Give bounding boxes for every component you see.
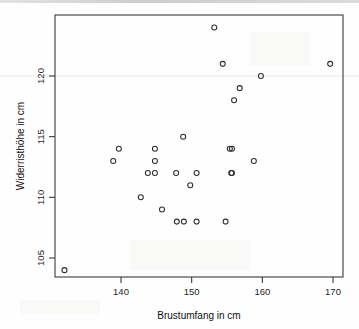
- data-point: [212, 25, 217, 30]
- y-tick-label: 105: [35, 250, 46, 266]
- data-point: [111, 158, 116, 163]
- data-point: [328, 61, 333, 66]
- scatter-plot-figure: 140150160170 105110115120 Brustumfang in…: [0, 0, 359, 329]
- data-point: [174, 219, 179, 224]
- y-axis-title: Widerristhöhe in cm: [15, 102, 26, 190]
- plot-frame: [55, 15, 343, 277]
- data-point: [62, 268, 67, 273]
- data-point: [232, 98, 237, 103]
- x-tick-label: 170: [325, 286, 341, 297]
- data-point: [181, 134, 186, 139]
- data-point: [159, 207, 164, 212]
- x-tick-label: 150: [184, 286, 200, 297]
- plot-canvas: 140150160170 105110115120 Brustumfang in…: [0, 0, 359, 329]
- y-tick-label: 120: [35, 68, 46, 84]
- x-axis: 140150160170: [113, 277, 341, 297]
- data-point: [220, 61, 225, 66]
- y-tick-label: 115: [35, 129, 46, 144]
- data-point: [152, 158, 157, 163]
- x-tick-label: 140: [113, 286, 129, 297]
- data-point: [174, 171, 179, 176]
- data-points-layer: [62, 25, 333, 273]
- data-point: [138, 195, 143, 200]
- data-point: [251, 158, 256, 163]
- y-tick-label: 110: [35, 190, 46, 205]
- data-point: [145, 171, 150, 176]
- data-point: [194, 219, 199, 224]
- data-point: [181, 219, 186, 224]
- data-point: [223, 219, 228, 224]
- data-point: [116, 146, 121, 151]
- data-point: [152, 171, 157, 176]
- y-axis: 105110115120: [35, 68, 55, 266]
- x-tick-label: 160: [254, 286, 270, 297]
- data-point: [188, 183, 193, 188]
- data-point: [152, 146, 157, 151]
- x-axis-title: Brustumfang in cm: [157, 310, 240, 321]
- data-point: [194, 171, 199, 176]
- data-point: [237, 86, 242, 91]
